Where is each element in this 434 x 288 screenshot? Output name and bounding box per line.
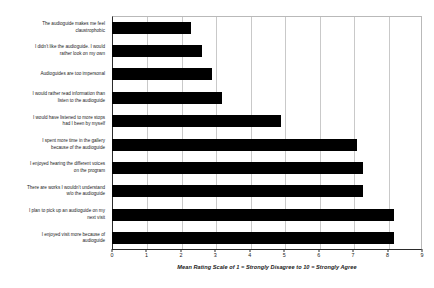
category-label-line: Audioguides are too impersonal [40,71,105,78]
category-label: Audioguides are too impersonal [0,63,108,86]
category-label-line: next visit [29,215,105,222]
x-axis-title: Mean Rating Scale of 1 = Strongly Disagr… [112,264,422,270]
bar-chart: The audioguide makes me feel claustropho… [0,0,434,288]
bar-row [112,156,422,179]
category-label-line: I plan to pick up an audioguide on my [29,208,105,215]
x-tick-label: 1 [145,252,148,258]
bar-row [112,227,422,250]
category-label-line: claustrophobic [42,28,105,35]
bar [112,45,202,57]
bar [112,232,394,244]
x-tick-label: 4 [248,252,251,258]
category-label: I would rather read information than lis… [0,86,108,109]
x-axis: 0123456789 [0,252,434,264]
category-label-line: on the program [30,168,105,175]
bar-row [112,133,422,156]
category-label-line: w/o the audioguide [27,191,105,198]
bar [112,68,212,80]
category-axis: The audioguide makes me feel claustropho… [0,16,108,250]
bars-layer [112,16,422,250]
category-label: I spent more time in the gallery because… [0,133,108,156]
category-label-line: I didn't like the audioguide. I would [35,44,105,51]
x-tick-label: 0 [111,252,114,258]
category-label-line: because of the audioguide [42,145,105,152]
category-label-line: I enjoyed visit more because of [42,232,105,239]
category-label-line: There are works I wouldn't understand [27,185,105,192]
category-label: I would have listened to more stops had … [0,110,108,133]
bar [112,92,222,104]
category-label-line: I would have listened to more stops [33,115,105,122]
x-tick-label: 6 [317,252,320,258]
bar-row [112,16,422,39]
category-label-line: I enjoyed hearing the different voices [30,161,105,168]
bar [112,162,363,174]
bar-row [112,63,422,86]
category-label-line: audioguide [42,238,105,245]
bar [112,115,281,127]
x-tick-label: 2 [179,252,182,258]
x-tick-label: 7 [352,252,355,258]
bar-row [112,39,422,62]
category-label-line: had I been by myself [33,121,105,128]
bar [112,139,357,151]
x-tick-label: 3 [214,252,217,258]
bar [112,22,191,34]
category-label: I enjoyed hearing the different voices o… [0,156,108,179]
bar-row [112,86,422,109]
category-label-line: listen to the audioguide [32,98,105,105]
bar [112,209,394,221]
category-label-line: rather look on my own [35,51,105,58]
category-label: I enjoyed visit more because of audiogui… [0,227,108,250]
category-label-line: I spent more time in the gallery [42,138,105,145]
bar [112,185,363,197]
category-label-line: I would rather read information than [32,91,105,98]
x-tick-label: 8 [386,252,389,258]
category-label: There are works I wouldn't understand w/… [0,180,108,203]
category-label-line: The audioguide makes me feel [42,21,105,28]
x-tick-label: 9 [421,252,424,258]
x-tick-label: 5 [283,252,286,258]
bar-row [112,203,422,226]
category-label: I didn't like the audioguide. I would ra… [0,39,108,62]
bar-row [112,110,422,133]
category-label: I plan to pick up an audioguide on my ne… [0,203,108,226]
bar-row [112,180,422,203]
category-label: The audioguide makes me feel claustropho… [0,16,108,39]
